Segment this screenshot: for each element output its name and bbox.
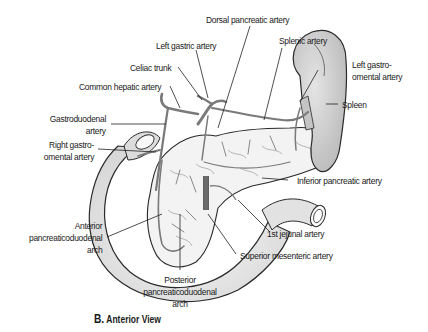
label-posterior-arch-line3: arch (136, 298, 224, 309)
label-left-gastric-artery: Left gastric artery (156, 40, 216, 51)
label-anterior-arch-line2: pancreaticoduodenal (29, 232, 102, 243)
label-superior-mesenteric-artery: Superior mesenteric artery (240, 250, 333, 261)
label-spleen: Spleen (342, 99, 367, 110)
view-title: Anterior View (106, 314, 161, 325)
label-dorsal-pancreatic-artery: Dorsal pancreatic artery (206, 14, 289, 25)
label-left-gastro-omental-artery-line1: Left gastro- (352, 59, 392, 70)
pancreas (147, 127, 337, 266)
label-anterior-arch-line1: Anterior (75, 220, 102, 231)
label-posterior-arch-line2: pancreaticoduodenal (136, 286, 224, 297)
label-anterior-arch-line3: arch (87, 244, 102, 255)
label-celiac-trunk: Celiac trunk (130, 62, 171, 73)
figure-caption: B. Anterior View (94, 312, 161, 326)
label-inferior-pancreatic-artery: Inferior pancreatic artery (297, 175, 382, 186)
label-right-gastro-omental-artery-line2: omental artery (44, 151, 94, 162)
label-gastroduodenal-artery-line1: Gastroduodenal (50, 113, 106, 124)
panel-letter: B. (94, 312, 104, 326)
label-common-hepatic-artery: Common hepatic artery (79, 81, 161, 92)
label-first-jejunal-artery: 1st jejunal artery (267, 228, 324, 239)
label-posterior-arch-line1: Posterior (136, 274, 224, 285)
label-right-gastro-omental-artery-line1: Right gastro- (49, 139, 94, 150)
label-gastroduodenal-artery-line2: artery (86, 125, 106, 136)
label-splenic-artery: Splenic artery (279, 35, 327, 46)
label-left-gastro-omental-artery-line2: omental artery (352, 71, 402, 82)
